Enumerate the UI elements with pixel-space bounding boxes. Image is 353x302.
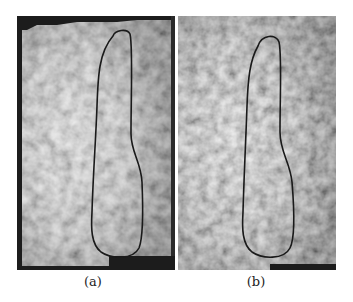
- ultrasound-image-a: [17, 16, 175, 270]
- ultrasound-image-b: [178, 16, 336, 270]
- caption-b: (b): [236, 274, 276, 289]
- caption-a: (a): [73, 274, 113, 289]
- figure-panel-b: [178, 16, 336, 270]
- figure-panel-a: [17, 16, 175, 270]
